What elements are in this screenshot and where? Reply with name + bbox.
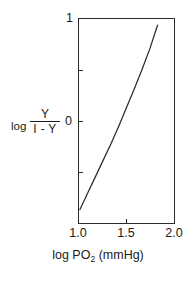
fraction-denominator: I - Y xyxy=(30,122,59,135)
fraction-numerator: Y xyxy=(37,108,53,121)
y-axis-title: log Y I - Y xyxy=(11,108,60,135)
y-tick-minor-lower xyxy=(78,172,83,173)
x-axis-title-suffix: (mmHg) xyxy=(95,248,144,262)
x-tick-label-1-5: 1.5 xyxy=(113,227,139,240)
y-tick-minor-upper xyxy=(78,70,83,71)
y-axis-title-fraction: Y I - Y xyxy=(30,108,59,135)
y-tick-label-1: 1 xyxy=(66,12,73,25)
x-tick-label-1-0: 1.0 xyxy=(65,227,91,240)
y-axis-title-log: log xyxy=(11,121,26,133)
hill-plot-figure: 1 0 1.0 1.5 2.0 log Y I - Y log PO2 (mmH… xyxy=(0,0,196,281)
y-tick-0 xyxy=(78,121,83,122)
y-tick-label-0: 0 xyxy=(65,115,72,128)
x-axis-title: log PO2 (mmHg) xyxy=(0,249,196,262)
x-tick-1-0 xyxy=(78,219,79,224)
x-axis-title-subscript: 2 xyxy=(90,254,95,264)
y-tick-1 xyxy=(78,18,83,19)
x-axis-title-prefix: log PO xyxy=(52,248,90,262)
x-tick-2-0 xyxy=(174,219,175,224)
plot-frame xyxy=(78,18,175,224)
x-tick-label-2-0: 2.0 xyxy=(161,227,187,240)
x-tick-1-5 xyxy=(126,219,127,224)
